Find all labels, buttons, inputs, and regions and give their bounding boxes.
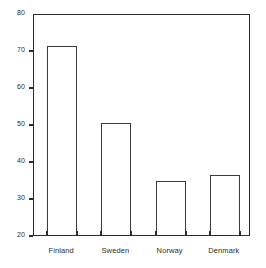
x-axis-tick-mark [76, 231, 78, 235]
x-axis-tick-mark [130, 231, 132, 235]
bar [156, 181, 186, 235]
x-axis-tick-mark [239, 231, 241, 235]
x-axis-tick-mark [209, 231, 211, 235]
plot-area [33, 14, 250, 236]
y-axis-tick-label: 20 [0, 230, 25, 239]
x-axis-tick-mark [185, 231, 187, 235]
y-axis-tick-label: 40 [0, 156, 25, 165]
y-axis-tick-label: 70 [0, 45, 25, 54]
bar [47, 46, 77, 235]
x-axis-category-label: Finland [31, 246, 91, 256]
y-axis-tick-label: 60 [0, 82, 25, 91]
bar [101, 123, 131, 235]
bar [210, 175, 240, 235]
x-axis-category-label: Denmark [194, 246, 254, 256]
y-axis-tick-label: 80 [0, 8, 25, 17]
bar-chart-figure: 80706050403020 FinlandSwedenNorwayDenmar… [0, 0, 266, 268]
x-axis-category-label: Norway [140, 246, 200, 256]
x-axis-tick-mark [100, 231, 102, 235]
x-axis-category-label: Sweden [85, 246, 145, 256]
x-axis-tick-mark [46, 231, 48, 235]
y-axis-tick-label: 30 [0, 193, 25, 202]
y-axis-tick-label: 50 [0, 119, 25, 128]
x-axis-tick-mark [155, 231, 157, 235]
